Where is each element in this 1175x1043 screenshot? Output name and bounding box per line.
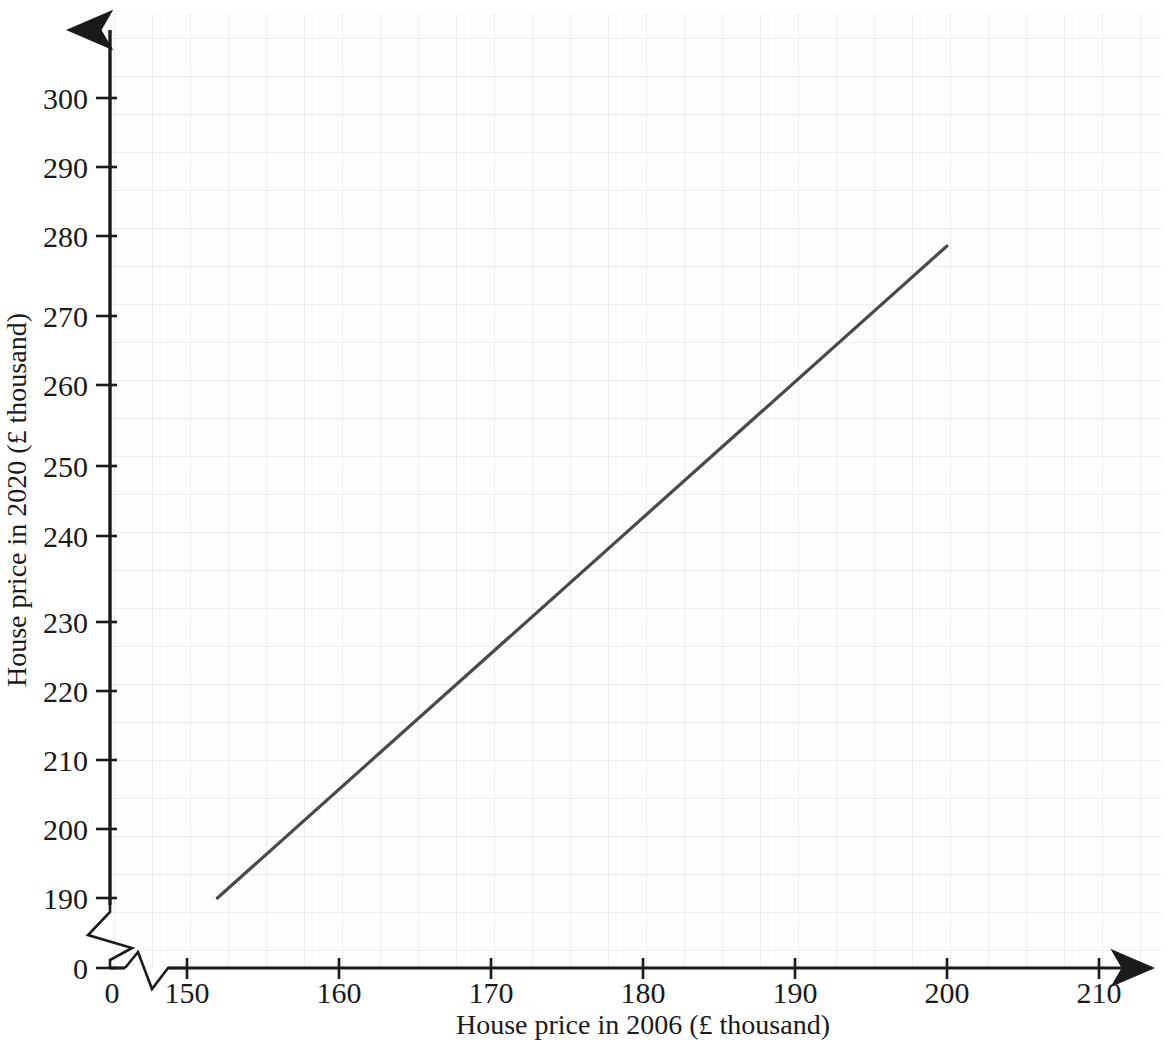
x-tick-label-160: 160 (317, 976, 362, 1009)
y-tick-label-0: 0 (73, 952, 88, 985)
y-tick-label-300: 300 (43, 82, 88, 115)
y-tick-label-250: 250 (43, 450, 88, 483)
x-axis-title: House price in 2006 (£ thousand) (456, 1009, 830, 1040)
scatter-graph-figure: 0 190 200 210 220 230 240 250 260 270 28… (0, 0, 1175, 1043)
x-tick-label-180: 180 (621, 976, 666, 1009)
y-tick-label-290: 290 (43, 151, 88, 184)
y-tick-label-200: 200 (43, 813, 88, 846)
x-tick-label-150: 150 (165, 976, 210, 1009)
y-tick-label-190: 190 (43, 882, 88, 915)
x-tick-label-190: 190 (773, 976, 818, 1009)
x-tick-label-0: 0 (105, 976, 120, 1009)
y-tick-label-270: 270 (43, 300, 88, 333)
y-tick-label-260: 260 (43, 369, 88, 402)
y-tick-label-220: 220 (43, 675, 88, 708)
y-tick-label-210: 210 (43, 744, 88, 777)
y-axis-title: House price in 2020 (£ thousand) (1, 313, 32, 687)
x-tick-label-170: 170 (469, 976, 514, 1009)
chart-canvas: 0 190 200 210 220 230 240 250 260 270 28… (0, 0, 1175, 1043)
y-tick-label-240: 240 (43, 520, 88, 553)
y-tick-label-280: 280 (43, 220, 88, 253)
plot-grid (110, 14, 1162, 968)
y-tick-label-230: 230 (43, 606, 88, 639)
x-tick-label-210: 210 (1077, 976, 1122, 1009)
x-tick-label-200: 200 (925, 976, 970, 1009)
